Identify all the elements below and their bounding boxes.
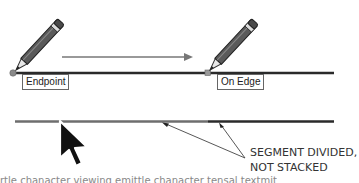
cut-off-caption: rtle chanacter viewing emittle chanacter… [0,176,277,183]
on-edge-label: On Edge [217,74,264,90]
mouse-cursor-icon [60,121,87,166]
pencil-icon [13,19,65,73]
callout-line-1: SEGMENT DIVIDED, [250,145,357,160]
endpoint-label: Endpoint [22,74,69,90]
pencil-icon [207,19,259,73]
leader-lines [162,123,245,159]
callout-line-2: NOT STACKED [250,160,357,175]
move-arrow-icon [62,53,193,61]
callout-text: SEGMENT DIVIDED, NOT STACKED [250,145,357,175]
on-edge-marker [205,70,211,76]
